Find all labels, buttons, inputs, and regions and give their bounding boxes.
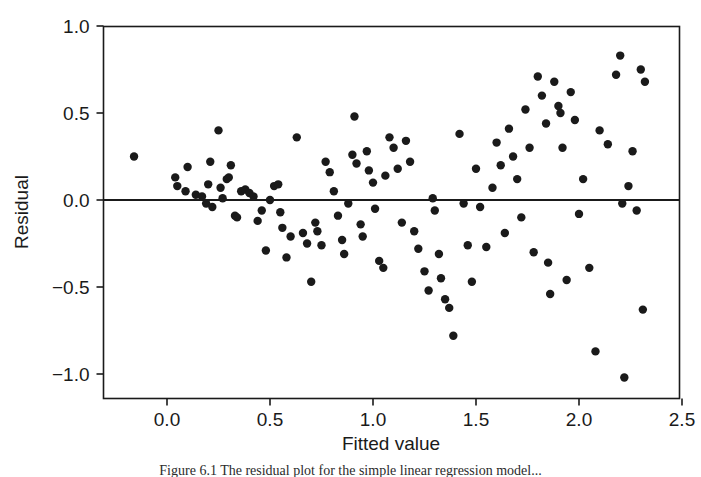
data-point: [348, 151, 356, 159]
data-point: [398, 218, 406, 226]
data-point: [513, 175, 521, 183]
data-point: [278, 224, 286, 232]
data-point: [350, 112, 358, 120]
data-point: [538, 91, 546, 99]
x-tick-label: 0.0: [154, 409, 180, 430]
data-point: [208, 203, 216, 211]
residual-scatter-plot: 0.00.51.01.52.02.5 −1.0−0.50.00.51.0 Fit…: [0, 0, 701, 477]
data-point: [214, 126, 222, 134]
data-point: [371, 205, 379, 213]
data-point: [641, 77, 649, 85]
data-point: [612, 71, 620, 79]
data-point: [429, 194, 437, 202]
data-point: [258, 206, 266, 214]
y-axis-ticks: [97, 26, 104, 374]
data-point: [171, 173, 179, 181]
y-tick-label: −1.0: [52, 364, 90, 385]
data-point: [307, 278, 315, 286]
data-point: [326, 168, 334, 176]
data-point: [435, 250, 443, 258]
data-point: [340, 250, 348, 258]
data-point: [505, 124, 513, 132]
data-point: [394, 164, 402, 172]
data-point: [556, 109, 564, 117]
data-point: [363, 147, 371, 155]
data-point: [492, 138, 500, 146]
data-point: [385, 133, 393, 141]
data-point: [344, 199, 352, 207]
data-point: [225, 173, 233, 181]
data-point: [637, 65, 645, 73]
data-point: [286, 232, 294, 240]
figure-caption: Figure 6.1 The residual plot for the sim…: [0, 462, 701, 477]
data-point: [303, 239, 311, 247]
data-point: [181, 187, 189, 195]
data-point: [206, 158, 214, 166]
x-axis-tick-labels: 0.00.51.01.52.02.5: [154, 409, 695, 430]
data-point: [365, 166, 373, 174]
y-axis-title: Residual: [11, 175, 32, 249]
data-point: [464, 241, 472, 249]
data-point: [420, 267, 428, 275]
data-point: [620, 373, 628, 381]
data-point: [472, 164, 480, 172]
data-point: [501, 229, 509, 237]
data-point: [604, 140, 612, 148]
y-tick-label: −0.5: [52, 277, 90, 298]
data-point: [441, 295, 449, 303]
data-point: [317, 241, 325, 249]
x-tick-label: 1.0: [360, 409, 386, 430]
data-point: [517, 213, 525, 221]
data-point: [431, 206, 439, 214]
data-point: [218, 194, 226, 202]
data-point: [334, 211, 342, 219]
data-point: [476, 203, 484, 211]
data-point: [468, 278, 476, 286]
data-point: [550, 77, 558, 85]
data-point: [389, 144, 397, 152]
data-point: [173, 182, 181, 190]
data-point: [575, 210, 583, 218]
data-point: [266, 196, 274, 204]
data-point: [227, 161, 235, 169]
data-point: [558, 144, 566, 152]
data-point: [253, 217, 261, 225]
data-point: [204, 180, 212, 188]
x-tick-label: 1.5: [463, 409, 489, 430]
data-point: [311, 218, 319, 226]
data-point: [639, 305, 647, 313]
x-axis-title: Fitted value: [342, 433, 440, 454]
data-point: [410, 227, 418, 235]
data-point: [437, 274, 445, 282]
data-point: [276, 208, 284, 216]
data-point: [338, 236, 346, 244]
data-point: [546, 290, 554, 298]
data-point: [488, 184, 496, 192]
data-point: [591, 347, 599, 355]
data-point: [567, 88, 575, 96]
data-point: [356, 220, 364, 228]
data-point: [130, 152, 138, 160]
data-point: [542, 119, 550, 127]
data-point: [562, 276, 570, 284]
data-point: [579, 175, 587, 183]
data-point: [459, 199, 467, 207]
data-point: [628, 147, 636, 155]
data-point: [274, 180, 282, 188]
x-tick-label: 2.5: [669, 409, 695, 430]
data-point: [445, 304, 453, 312]
data-point: [525, 144, 533, 152]
y-tick-label: 0.0: [63, 190, 89, 211]
plot-frame: [104, 27, 680, 399]
data-point: [313, 227, 321, 235]
data-point: [183, 163, 191, 171]
data-point: [616, 51, 624, 59]
data-point: [359, 232, 367, 240]
data-point: [521, 105, 529, 113]
data-point: [299, 229, 307, 237]
y-axis-tick-labels: −1.0−0.50.00.51.0: [52, 16, 90, 385]
data-point: [381, 171, 389, 179]
data-point: [482, 243, 490, 251]
data-point: [369, 178, 377, 186]
data-point: [249, 192, 257, 200]
